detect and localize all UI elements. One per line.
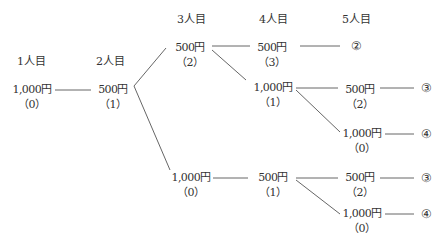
amount: 1,000円 [339,206,385,221]
outcome-5: ④ [421,207,432,221]
header-person-2: 2人目 [96,55,125,68]
node-p5a: 500円 （2） [340,82,380,112]
amount: 1,000円 [169,170,213,185]
amount: 500円 [340,170,380,185]
count: （1） [251,95,295,110]
amount: 500円 [170,40,210,55]
outcome-4: ③ [421,171,432,185]
node-p4a: 500円 （3） [252,40,292,70]
count: （0） [10,97,54,112]
node-p4b: 1,000円 （1） [251,80,295,110]
count: （0） [339,221,385,236]
amount: 1,000円 [251,80,295,95]
header-person-3: 3人目 [177,13,206,26]
count: （2） [340,185,380,200]
count: （0） [339,141,385,156]
count: （0） [169,185,213,200]
header-person-5: 5人目 [342,13,371,26]
amount: 500円 [93,82,133,97]
node-p5b: 1,000円 （0） [339,126,385,156]
node-p3a: 500円 （2） [170,40,210,70]
amount: 1,000円 [10,82,54,97]
count: （2） [340,97,380,112]
count: （3） [252,55,292,70]
amount: 500円 [252,40,292,55]
amount: 500円 [253,170,293,185]
outcome-1: ② [351,39,362,53]
outcome-2: ③ [421,81,432,95]
node-p1: 1,000円 （0） [10,82,54,112]
count: （1） [253,185,293,200]
amount: 1,000円 [339,126,385,141]
count: （1） [93,97,133,112]
outcome-3: ④ [421,127,432,141]
header-person-1: 1人目 [17,55,46,68]
amount: 500円 [340,82,380,97]
node-p5c: 500円 （2） [340,170,380,200]
count: （2） [170,55,210,70]
node-p2: 500円 （1） [93,82,133,112]
node-p3b: 1,000円 （0） [169,170,213,200]
node-p4c: 500円 （1） [253,170,293,200]
node-p5d: 1,000円 （0） [339,206,385,236]
header-person-4: 4人目 [259,13,288,26]
